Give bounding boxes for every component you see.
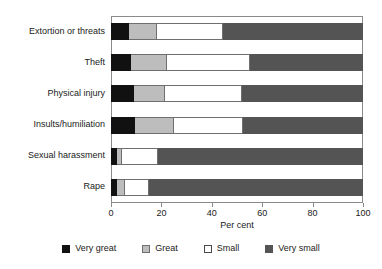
bar-segment-great bbox=[135, 117, 173, 134]
x-tick-label: 0 bbox=[108, 208, 113, 219]
legend-item-very-small: Very small bbox=[265, 243, 320, 254]
bar-segment-very-great bbox=[111, 54, 131, 71]
bar-segment-small bbox=[124, 179, 149, 196]
x-tick-label: 100 bbox=[355, 208, 370, 219]
bar-segment-very-great bbox=[111, 23, 129, 40]
bar-segment-very-small bbox=[149, 179, 363, 196]
bar-row bbox=[111, 23, 363, 40]
legend-item-great: Great bbox=[142, 243, 178, 254]
legend-swatch-great-icon bbox=[142, 245, 150, 253]
chart-legend: Very greatGreatSmallVery small bbox=[0, 243, 382, 254]
bar-segment-very-great bbox=[111, 85, 134, 102]
bar-row bbox=[111, 179, 363, 196]
stacked-bar-chart: Extortion or threatsTheftPhysical injury… bbox=[0, 0, 382, 269]
bars-layer bbox=[111, 16, 363, 203]
bar-segment-small bbox=[156, 23, 223, 40]
x-tick-mark bbox=[161, 203, 162, 207]
category-label: Sexual harassment bbox=[28, 150, 105, 161]
x-tick-mark bbox=[111, 203, 112, 207]
bar-segment-small bbox=[121, 148, 158, 165]
legend-item-small: Small bbox=[204, 243, 240, 254]
category-label: Rape bbox=[83, 181, 105, 192]
bar-segment-great bbox=[129, 23, 157, 40]
x-tick-mark bbox=[363, 203, 364, 207]
legend-swatch-very-small-icon bbox=[265, 245, 273, 253]
bar-segment-small bbox=[166, 54, 249, 71]
legend-label: Great bbox=[155, 243, 178, 254]
x-tick-mark bbox=[262, 203, 263, 207]
legend-swatch-small-icon bbox=[204, 245, 212, 253]
x-tick-mark bbox=[212, 203, 213, 207]
category-label: Extortion or threats bbox=[29, 26, 105, 37]
legend-label: Very small bbox=[278, 243, 320, 254]
legend-label: Very great bbox=[75, 243, 116, 254]
bar-segment-very-small bbox=[158, 148, 363, 165]
bar-row bbox=[111, 54, 363, 71]
bar-segment-very-small bbox=[243, 117, 363, 134]
x-tick-label: 80 bbox=[308, 208, 318, 219]
bar-row bbox=[111, 148, 363, 165]
bar-row bbox=[111, 117, 363, 134]
x-tick-label: 40 bbox=[207, 208, 217, 219]
category-axis-labels: Extortion or threatsTheftPhysical injury… bbox=[0, 16, 105, 203]
bar-segment-very-small bbox=[250, 54, 363, 71]
bar-segment-great bbox=[134, 85, 164, 102]
category-label: Insults/humiliation bbox=[33, 119, 105, 130]
category-label: Physical injury bbox=[47, 88, 105, 99]
x-tick-label: 20 bbox=[156, 208, 166, 219]
bar-segment-very-great bbox=[111, 117, 135, 134]
category-label: Theft bbox=[84, 57, 105, 68]
legend-label: Small bbox=[217, 243, 240, 254]
bar-segment-small bbox=[164, 85, 242, 102]
bar-row bbox=[111, 85, 363, 102]
x-axis-title: Per cent bbox=[111, 220, 363, 231]
x-tick-mark bbox=[313, 203, 314, 207]
bar-segment-great bbox=[131, 54, 166, 71]
legend-swatch-very-great-icon bbox=[62, 245, 70, 253]
bar-segment-very-small bbox=[242, 85, 363, 102]
bar-segment-very-small bbox=[223, 23, 363, 40]
x-tick-label: 60 bbox=[257, 208, 267, 219]
bar-segment-small bbox=[173, 117, 244, 134]
legend-item-very-great: Very great bbox=[62, 243, 116, 254]
